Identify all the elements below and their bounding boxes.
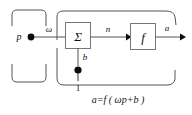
- input-dot: [28, 34, 35, 41]
- sum-symbol: Σ: [73, 29, 82, 44]
- input-connection: [28, 34, 65, 41]
- bias-source-label: 1: [76, 83, 81, 93]
- arrowhead-output: [180, 34, 186, 41]
- bias-label: b: [83, 52, 88, 62]
- neuron-diagram: p ω Σ n f a b 1 a=f ( ωp+b ): [0, 0, 192, 115]
- net-input-label: n: [106, 24, 111, 34]
- bias-dot: [74, 66, 81, 73]
- output-label: a: [165, 23, 170, 33]
- net-input-connection: [90, 33, 132, 40]
- input-label: p: [16, 31, 22, 42]
- equation-label: a=f ( ωp+b ): [92, 94, 145, 106]
- figure-canvas: p ω Σ n f a b 1 a=f ( ωp+b ): [0, 0, 192, 115]
- output-connection: [155, 34, 186, 41]
- weight-label: ω: [46, 24, 52, 34]
- input-group-brace: [12, 10, 46, 82]
- bias-connection: [74, 48, 81, 81]
